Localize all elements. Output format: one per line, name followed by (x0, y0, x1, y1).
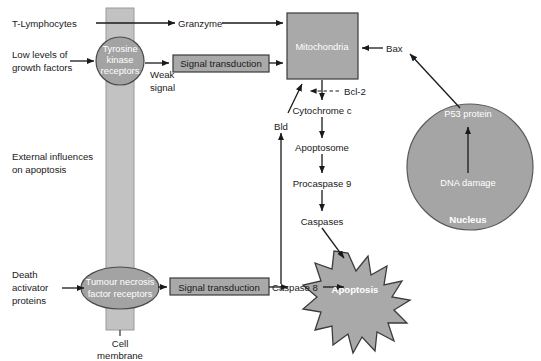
label-bid: Bld (274, 121, 288, 132)
label-growth-factors-line1: Low levels of (12, 49, 68, 60)
label-death-activator-line1: Death (12, 269, 38, 280)
label-procaspase9: Procaspase 9 (293, 178, 352, 189)
label-tnf-line2: factor receptors (88, 289, 153, 299)
apoptosis-pathway-diagram: T-Lymphocytes Low levels of growth facto… (0, 0, 541, 361)
label-t-lymphocytes: T-Lymphocytes (12, 18, 77, 29)
nucleus-circle (407, 104, 533, 230)
edge-caspases-apoptosis (322, 228, 344, 258)
label-death-activator-line3: proteins (12, 295, 46, 306)
apoptosis-starburst (303, 251, 410, 353)
label-granzyme: Granzyme (178, 18, 222, 29)
label-signal-transduction-bottom: Signal transduction (178, 282, 260, 293)
label-apoptosis: Apoptosis (332, 284, 379, 295)
label-tyrosine-line1: Tyrosine (102, 44, 137, 54)
label-dna-damage: DNA damage (440, 178, 495, 188)
label-weak-signal-line2: signal (150, 82, 175, 93)
label-weak-signal-line1: Weak (150, 69, 175, 80)
label-growth-factors-line2: growth factors (12, 62, 72, 73)
label-caspases: Caspases (301, 216, 344, 227)
label-cytochrome-c: Cytochrome c (292, 105, 351, 116)
label-cell-membrane-line2: membrane (97, 350, 143, 361)
label-bax: Bax (386, 43, 403, 54)
label-cell-membrane-line1: Cell (112, 338, 129, 349)
tnf-receptor-ellipse (81, 267, 159, 309)
label-apoptosome: Apoptosome (295, 142, 349, 153)
label-tyrosine-line3: receptors (101, 66, 140, 76)
label-p53-protein: P53 protein (444, 109, 492, 119)
label-caspase8: Caspase 8 (272, 282, 318, 293)
label-nucleus: Nucleus (449, 214, 486, 225)
label-signal-transduction-top: Signal transduction (180, 58, 262, 69)
label-bcl2: Bcl-2 (344, 86, 366, 97)
edge-p53-bax (410, 54, 460, 108)
label-external-influences-line1: External influences (12, 151, 93, 162)
diagram-canvas: T-Lymphocytes Low levels of growth facto… (0, 0, 541, 361)
label-mitochondria: Mitochondria (295, 42, 349, 52)
label-tnf-line1: Tumour necrosis (86, 277, 155, 287)
label-tyrosine-line2: kinase (107, 55, 134, 65)
label-external-influences-line2: on apoptosis (12, 164, 67, 175)
label-death-activator-line2: activator (12, 282, 49, 293)
